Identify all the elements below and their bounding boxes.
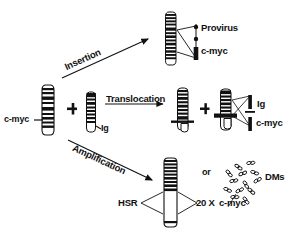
figure-canvas: c-myc Insertion Translocation Amplificat… bbox=[0, 0, 290, 234]
label-provirus: Provirus bbox=[201, 23, 238, 33]
chromosome-source-cmyc bbox=[34, 85, 54, 135]
chromosome-insertion-product bbox=[166, 12, 199, 65]
figure-vector-layer bbox=[0, 0, 290, 234]
plus-sign-2 bbox=[200, 103, 210, 114]
chromosome-ig bbox=[87, 92, 102, 132]
chromosome-translocation-product-2 bbox=[214, 89, 255, 131]
chromosome-hsr bbox=[141, 158, 197, 227]
label-hsr: HSR bbox=[118, 198, 137, 208]
chromosome-translocation-product-1 bbox=[171, 88, 194, 132]
label-product-cmyc: c-myc bbox=[256, 118, 282, 128]
label-copy-number: 20 X bbox=[196, 198, 215, 208]
label-or: or bbox=[202, 168, 211, 177]
label-amplified-cmyc: c-myc bbox=[219, 198, 245, 208]
label-dms: DMs bbox=[265, 172, 284, 182]
label-ig-partner: Ig bbox=[101, 124, 109, 133]
label-insertion-cmyc: c-myc bbox=[201, 46, 227, 56]
label-source-cmyc: c-myc bbox=[4, 115, 29, 124]
label-pathway-translocation: Translocation bbox=[106, 94, 165, 104]
plus-sign-1 bbox=[67, 103, 77, 115]
label-product-ig: Ig bbox=[257, 99, 265, 109]
